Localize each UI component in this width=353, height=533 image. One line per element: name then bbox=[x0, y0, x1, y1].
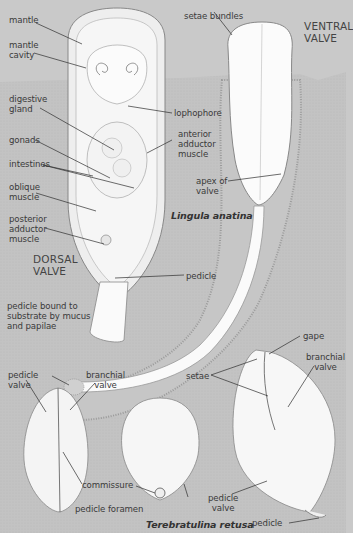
heading-dorsal-valve: DORSAL VALVE bbox=[33, 253, 78, 277]
label-mantle: mantle bbox=[9, 15, 39, 25]
label-oblique-muscle: oblique muscle bbox=[9, 182, 40, 202]
label-pedicle-valve-left: pedicle valve bbox=[8, 370, 38, 390]
label-pedicle-bound-to-substrate: pedicle bound to substrate by mucus and … bbox=[7, 301, 90, 331]
label-pedicle-right: pedicle bbox=[252, 518, 282, 528]
label-digestive-gland: digestive gland bbox=[9, 94, 47, 114]
label-pedicle-foramen: pedicle foramen bbox=[75, 504, 143, 514]
label-apex-of-valve: apex of valve bbox=[196, 176, 227, 196]
species-name-lingula: Lingula anatina bbox=[171, 211, 253, 221]
label-lophophore: lophophore bbox=[174, 108, 222, 118]
label-pedicle: pedicle bbox=[186, 271, 216, 281]
label-posterior-adductor-muscle: posterior adductor muscle bbox=[9, 214, 47, 244]
label-setae-bundles: setae bundles bbox=[184, 11, 243, 21]
label-gonads: gonads bbox=[9, 135, 40, 145]
label-setae: setae bbox=[186, 371, 209, 381]
label-gape: gape bbox=[303, 331, 324, 341]
label-anterior-adductor-muscle: anterior adductor muscle bbox=[178, 129, 216, 159]
label-intestines: intestines bbox=[9, 159, 50, 169]
label-commissure: commissure bbox=[82, 480, 133, 490]
label-branchial-valve-left: branchial valve bbox=[86, 370, 125, 390]
heading-ventral-valve: VENTRAL VALVE bbox=[304, 20, 353, 44]
species-name-terebratulina: Terebratulina retusa bbox=[146, 520, 254, 530]
label-mantle-cavity: mantle cavity bbox=[9, 40, 39, 60]
label-pedicle-valve-mid: pedicle valve bbox=[208, 493, 238, 513]
label-branchial-valve-right: branchial valve bbox=[306, 352, 345, 372]
